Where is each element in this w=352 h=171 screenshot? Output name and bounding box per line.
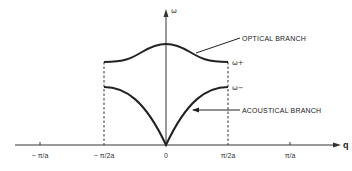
tick-label-pi-a: π/a (285, 152, 296, 159)
optical-branch-label: OPTICAL BRANCH (242, 35, 306, 42)
x-axis (15, 142, 341, 148)
y-axis-arrow-icon (164, 9, 169, 17)
acoustical-branch-label: ACOUSTICAL BRANCH (242, 107, 321, 114)
omega-plus-label: ω+ (232, 59, 244, 67)
tick-label-zero: 0 (164, 152, 168, 159)
acoustical-arrow-icon (192, 108, 199, 113)
y-axis (164, 9, 169, 145)
dispersion-diagram: ω q OPTICAL BRANCH ACOUSTICAL BRANCH ω+ … (0, 0, 352, 171)
optical-pointer (196, 38, 240, 53)
tick-label-neg-pi-a: − π/a (32, 152, 49, 159)
y-axis-label: ω (171, 7, 177, 15)
omega-minus-label: ω− (232, 84, 244, 92)
tick-label-neg-pi-2a: − π/2a (94, 152, 115, 159)
x-axis-arrow-icon (333, 143, 341, 148)
tick-label-pi-2a: π/2a (221, 152, 236, 159)
x-axis-label: q (343, 140, 349, 150)
